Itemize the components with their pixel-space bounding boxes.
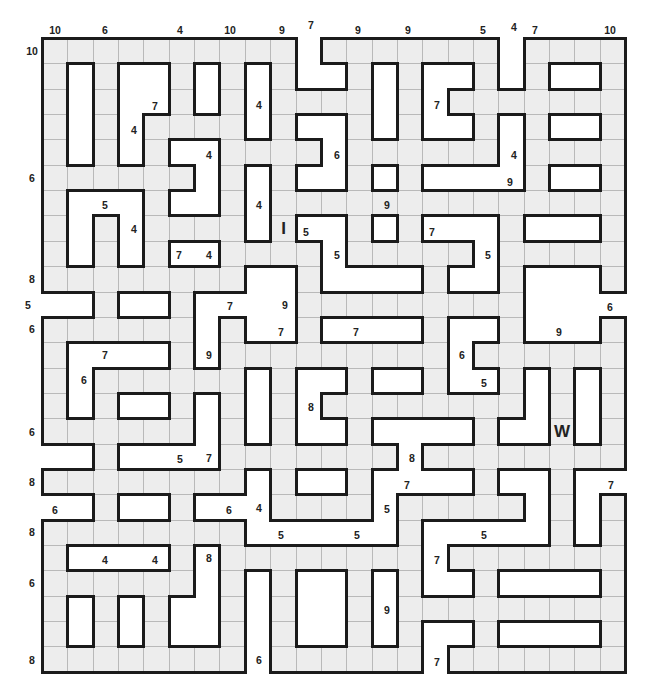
grid-cell[interactable] <box>42 393 68 419</box>
grid-cell[interactable] <box>498 292 525 318</box>
grid-cell[interactable] <box>296 139 322 166</box>
grid-cell[interactable] <box>219 596 246 622</box>
grid-cell[interactable] <box>169 266 195 293</box>
grid-cell[interactable] <box>169 368 195 394</box>
grid-cell[interactable] <box>549 393 575 419</box>
grid-cell[interactable] <box>372 646 398 673</box>
grid-cell[interactable] <box>118 418 144 445</box>
grid-cell[interactable] <box>169 342 195 369</box>
grid-cell[interactable] <box>93 621 119 647</box>
grid-cell[interactable] <box>549 545 575 571</box>
grid-cell[interactable] <box>549 469 575 495</box>
grid-cell[interactable] <box>219 570 246 597</box>
grid-cell[interactable] <box>346 570 373 597</box>
grid-cell[interactable] <box>549 89 575 115</box>
grid-cell[interactable] <box>118 646 144 673</box>
grid-cell[interactable] <box>422 241 449 267</box>
grid-cell[interactable] <box>245 38 271 64</box>
grid-cell[interactable] <box>42 368 68 394</box>
grid-cell[interactable] <box>42 165 68 191</box>
grid-cell[interactable] <box>498 494 525 521</box>
grid-cell[interactable] <box>245 139 271 166</box>
grid-cell[interactable] <box>372 139 398 166</box>
grid-cell[interactable] <box>524 241 550 267</box>
grid-cell[interactable] <box>574 139 601 166</box>
grid-cell[interactable] <box>270 393 297 419</box>
grid-cell[interactable] <box>296 241 322 267</box>
grid-cell[interactable] <box>372 292 398 318</box>
grid-cell[interactable] <box>346 63 373 90</box>
grid-cell[interactable] <box>346 190 373 216</box>
grid-cell[interactable] <box>372 342 398 369</box>
grid-cell[interactable] <box>448 444 474 470</box>
grid-cell[interactable] <box>42 418 68 445</box>
grid-cell[interactable] <box>93 596 119 622</box>
grid-cell[interactable] <box>169 165 195 191</box>
grid-cell[interactable] <box>346 646 373 673</box>
grid-cell[interactable] <box>194 215 220 242</box>
grid-cell[interactable] <box>296 317 322 343</box>
grid-cell[interactable] <box>346 368 373 394</box>
grid-cell[interactable] <box>93 520 119 546</box>
grid-cell[interactable] <box>93 139 119 166</box>
grid-cell[interactable] <box>600 621 626 647</box>
grid-cell[interactable] <box>219 646 246 673</box>
grid-cell[interactable] <box>321 494 347 521</box>
grid-cell[interactable] <box>93 89 119 115</box>
grid-cell[interactable] <box>296 646 322 673</box>
grid-cell[interactable] <box>524 545 550 571</box>
grid-cell[interactable] <box>549 596 575 622</box>
grid-cell[interactable] <box>448 89 474 115</box>
grid-cell[interactable] <box>143 139 170 166</box>
grid-cell[interactable] <box>93 317 119 343</box>
grid-cell[interactable] <box>143 114 170 140</box>
grid-cell[interactable] <box>473 63 499 90</box>
grid-cell[interactable] <box>93 215 119 242</box>
grid-cell[interactable] <box>524 342 550 369</box>
grid-cell[interactable] <box>422 266 449 293</box>
grid-cell[interactable] <box>372 545 398 571</box>
grid-cell[interactable] <box>498 545 525 571</box>
grid-cell[interactable] <box>600 494 626 521</box>
grid-cell[interactable] <box>372 393 398 419</box>
grid-cell[interactable] <box>372 444 398 470</box>
grid-cell[interactable] <box>397 114 423 140</box>
grid-cell[interactable] <box>422 292 449 318</box>
grid-cell[interactable] <box>448 190 474 216</box>
grid-cell[interactable] <box>219 469 246 495</box>
grid-cell[interactable] <box>270 139 297 166</box>
grid-cell[interactable] <box>296 89 322 115</box>
grid-cell[interactable] <box>219 266 246 293</box>
grid-cell[interactable] <box>346 393 373 419</box>
grid-cell[interactable] <box>143 596 170 622</box>
grid-cell[interactable] <box>270 621 297 647</box>
grid-cell[interactable] <box>270 190 297 216</box>
grid-cell[interactable] <box>118 266 144 293</box>
grid-cell[interactable] <box>270 38 297 64</box>
grid-cell[interactable] <box>498 368 525 394</box>
grid-cell[interactable] <box>169 646 195 673</box>
grid-cell[interactable] <box>473 469 499 495</box>
grid-cell[interactable] <box>270 494 297 521</box>
grid-cell[interactable] <box>194 266 220 293</box>
grid-cell[interactable] <box>346 494 373 521</box>
grid-cell[interactable] <box>600 114 626 140</box>
grid-cell[interactable] <box>270 545 297 571</box>
grid-cell[interactable] <box>549 494 575 521</box>
grid-cell[interactable] <box>219 165 246 191</box>
grid-cell[interactable] <box>473 570 499 597</box>
grid-cell[interactable] <box>346 241 373 267</box>
grid-cell[interactable] <box>296 444 322 470</box>
grid-cell[interactable] <box>473 190 499 216</box>
grid-cell[interactable] <box>118 520 144 546</box>
grid-cell[interactable] <box>93 38 119 64</box>
grid-cell[interactable] <box>321 342 347 369</box>
grid-cell[interactable] <box>270 342 297 369</box>
grid-cell[interactable] <box>574 38 601 64</box>
grid-cell[interactable] <box>93 241 119 267</box>
grid-cell[interactable] <box>296 342 322 369</box>
grid-cell[interactable] <box>219 114 246 140</box>
grid-cell[interactable] <box>270 469 297 495</box>
grid-cell[interactable] <box>219 139 246 166</box>
grid-cell[interactable] <box>524 444 550 470</box>
